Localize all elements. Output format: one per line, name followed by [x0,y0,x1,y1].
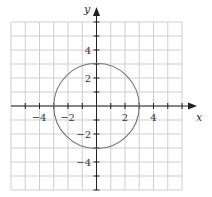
y-axis-arrow-icon [93,7,100,16]
x-axis-label: x [196,111,203,124]
x-tick-label: 4 [150,112,156,123]
y-tick-label: −2 [76,129,91,140]
x-axis-arrow-icon [188,103,197,110]
y-axis-label: y [83,3,91,16]
axes [11,7,197,190]
x-tick-label: −2 [60,112,75,123]
y-tick-label: 4 [85,45,91,56]
x-tick-label: 2 [122,112,128,123]
chart: −4 −2 2 4 4 2 −2 −4 x y [0,0,212,197]
y-tick-label: 2 [85,73,91,84]
y-tick-label: −4 [76,157,91,168]
x-tick-label: −4 [32,112,47,123]
